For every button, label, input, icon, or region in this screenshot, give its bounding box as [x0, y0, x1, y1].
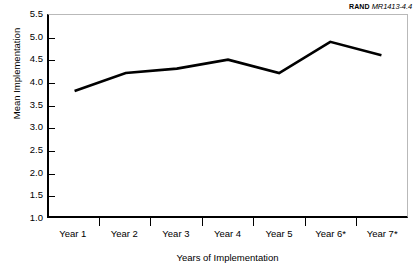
y-axis-tick-label: 2.5 — [16, 145, 43, 155]
y-axis-tick-label: 2.0 — [16, 168, 43, 178]
y-axis-tick-label: 5.5 — [16, 9, 43, 19]
chart-figure: RAND MR1413-4.4 Mean Implementation 1.01… — [0, 0, 416, 275]
x-axis-tick-mark — [305, 218, 306, 226]
series-line-mean-implementation — [75, 42, 382, 91]
y-axis-tick-label: 3.0 — [16, 122, 43, 132]
x-axis-tick-labels: Year 1Year 2Year 3Year 4Year 5Year 6*Yea… — [47, 228, 408, 242]
x-axis-tick-label: Year 6* — [305, 228, 357, 240]
y-axis-tick-label: 4.0 — [16, 77, 43, 87]
y-axis-tick-mark — [49, 60, 55, 61]
y-axis-tick-mark — [49, 83, 55, 84]
x-axis-tick-label: Year 7* — [356, 228, 408, 240]
plot-area — [49, 15, 407, 216]
y-axis-tick-label: 3.5 — [16, 100, 43, 110]
y-axis-tick-mark — [49, 38, 55, 39]
x-axis-tick-label: Year 4 — [202, 228, 254, 240]
x-axis-tick-mark — [356, 218, 357, 226]
y-axis-tick-labels: 1.01.52.02.53.03.54.04.55.05.5 — [16, 14, 43, 218]
plot-frame — [47, 14, 408, 218]
y-axis-tick-mark — [49, 106, 55, 107]
y-axis-tick-label: 4.5 — [16, 54, 43, 64]
x-axis-tick-mark — [99, 218, 100, 226]
rand-identifier-prefix: RAND — [349, 3, 370, 10]
x-axis-tick-mark — [202, 218, 203, 226]
line-series — [49, 15, 407, 216]
y-axis-tick-mark — [49, 128, 55, 129]
x-axis-title: Years of Implementation — [47, 252, 408, 263]
y-axis-tick-mark — [49, 174, 55, 175]
rand-identifier-number: MR1413-4.4 — [372, 2, 412, 11]
x-axis-tick-label: Year 5 — [253, 228, 305, 240]
rand-identifier: RAND MR1413-4.4 — [349, 2, 412, 11]
y-axis-tick-label: 5.0 — [16, 32, 43, 42]
y-axis-tick-label: 1.0 — [16, 213, 43, 223]
y-axis-tick-label: 1.5 — [16, 190, 43, 200]
y-axis-tick-mark — [49, 151, 55, 152]
y-axis-tick-mark — [49, 196, 55, 197]
x-axis-tick-label: Year 1 — [47, 228, 99, 240]
x-axis-tick-mark — [253, 218, 254, 226]
x-axis-tick-label: Year 3 — [150, 228, 202, 240]
x-axis-tick-mark — [150, 218, 151, 226]
x-axis-tick-label: Year 2 — [99, 228, 151, 240]
